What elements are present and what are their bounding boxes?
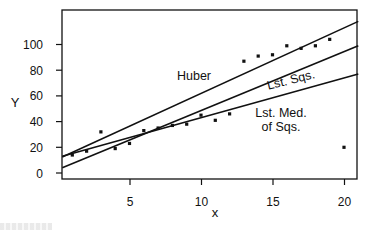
- x-tick-label-5: 5: [127, 195, 134, 209]
- data-point: [157, 126, 160, 129]
- data-point: [285, 44, 288, 47]
- data-point: [242, 60, 245, 63]
- regression-line-huber: [62, 21, 358, 157]
- data-point: [328, 38, 331, 41]
- y-axis: 0 20 40 60 80 100 Y: [11, 38, 62, 181]
- y-tick-label-40: 40: [30, 115, 44, 129]
- lms-label-line1: Lst. Med.: [255, 106, 306, 120]
- data-point: [199, 114, 202, 117]
- y-tick-label-0: 0: [36, 167, 43, 181]
- data-point: [114, 147, 117, 150]
- regression-line-lst-med-of-sqs: [62, 74, 358, 156]
- regression-line-lst-sqs: [62, 46, 358, 168]
- lst-sqs-label: Lst. Sqs.: [266, 67, 317, 92]
- lms-label-line2: of Sqs.: [262, 120, 301, 134]
- regression-lines: [62, 21, 358, 167]
- data-points: [71, 38, 346, 157]
- data-point: [214, 119, 217, 122]
- data-point: [257, 54, 260, 57]
- data-point: [228, 112, 231, 115]
- data-point: [300, 47, 303, 50]
- data-point: [128, 142, 131, 145]
- data-point: [71, 153, 74, 156]
- x-axis: 5 10 15 20 x: [127, 179, 352, 220]
- y-tick-label-20: 20: [30, 141, 44, 155]
- x-tick-label-10: 10: [195, 195, 209, 209]
- x-tick-label-20: 20: [338, 195, 352, 209]
- x-axis-title: x: [212, 205, 219, 220]
- data-point: [171, 124, 174, 127]
- y-tick-label-60: 60: [30, 89, 44, 103]
- x-tick-label-15: 15: [266, 195, 280, 209]
- cropped-caption-fragment: [0, 223, 52, 230]
- regression-chart: 0 20 40 60 80 100 Y 5 10 15 20 x Huber L…: [0, 0, 368, 230]
- data-point: [85, 150, 88, 153]
- y-tick-label-100: 100: [23, 38, 43, 52]
- data-point: [142, 129, 145, 132]
- data-point: [314, 44, 317, 47]
- data-point: [185, 123, 188, 126]
- plot-frame: [62, 10, 357, 179]
- huber-label: Huber: [177, 69, 211, 83]
- data-point: [271, 53, 274, 56]
- data-point: [342, 146, 345, 149]
- data-point: [99, 130, 102, 133]
- y-tick-label-80: 80: [30, 64, 44, 78]
- y-axis-title: Y: [11, 95, 20, 110]
